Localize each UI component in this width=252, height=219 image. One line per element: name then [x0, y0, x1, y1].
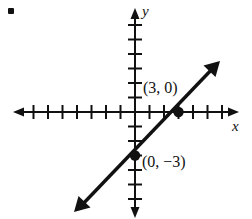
point-marker-x-intercept [173, 107, 183, 117]
point-marker-y-intercept [130, 150, 140, 160]
y-axis-label: y [142, 4, 149, 19]
point-label-y-intercept: (0, −3) [142, 154, 186, 170]
coordinate-plane-figure: y x (3, 0) (0, −3) [0, 0, 252, 219]
graph-canvas [0, 0, 252, 219]
y-axis-top-arrow-icon [131, 8, 140, 19]
y-axis-bottom-arrow-icon [131, 207, 140, 218]
x-axis-left-arrow-icon [13, 108, 24, 117]
x-axis-label: x [232, 119, 239, 134]
item-bullet [8, 8, 14, 14]
point-label-x-intercept: (3, 0) [143, 80, 178, 96]
x-axis-right-arrow-icon [228, 108, 239, 117]
